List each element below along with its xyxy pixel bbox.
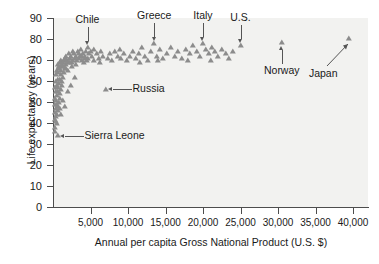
x-tick-mark <box>166 208 167 214</box>
data-point-marker <box>51 116 57 121</box>
y-axis-title: Life expectancy (years) <box>25 15 37 205</box>
annotation-arrowhead <box>238 39 242 43</box>
data-point-marker <box>151 40 157 45</box>
data-point-marker <box>207 57 213 62</box>
data-point-marker <box>62 103 68 108</box>
data-point-marker <box>197 53 203 58</box>
annotation-label-norway: Norway <box>264 65 300 76</box>
data-point-marker <box>279 39 285 44</box>
data-point-marker <box>157 47 163 52</box>
y-tick-mark <box>47 207 53 208</box>
x-tick-label: 20,000 <box>188 217 219 228</box>
annotation-leader-line <box>113 89 132 90</box>
data-point-marker <box>185 57 191 62</box>
x-axis-title: Annual per capita Gross National Product… <box>53 236 369 248</box>
annotation-label-russia: Russia <box>133 83 165 94</box>
data-point-marker <box>52 101 58 106</box>
annotation-leader-line <box>282 50 283 64</box>
x-tick-mark <box>128 208 129 214</box>
y-tick-mark <box>47 39 53 40</box>
annotation-arrowhead <box>200 37 204 41</box>
data-point-marker <box>226 55 232 60</box>
data-point-marker <box>58 112 64 117</box>
data-point-marker <box>190 43 196 48</box>
annotation-label-japan: Japan <box>309 68 338 79</box>
annotation-arrowhead <box>60 134 64 138</box>
x-tick-label: 30,000 <box>263 217 294 228</box>
data-point-marker <box>200 40 206 45</box>
data-point-marker <box>68 82 74 87</box>
annotation-arrowhead <box>108 87 112 91</box>
x-tick-mark <box>316 208 317 214</box>
data-point-marker <box>237 43 243 48</box>
annotation-label-u-s: U.S. <box>230 12 250 23</box>
data-point-marker <box>138 45 144 50</box>
data-point-marker <box>137 59 143 64</box>
x-tick-mark <box>91 208 92 214</box>
x-tick-label: 25,000 <box>225 217 256 228</box>
y-tick-mark <box>47 60 53 61</box>
data-point-marker <box>72 74 78 79</box>
x-tick-mark <box>353 208 354 214</box>
x-axis-line <box>53 207 369 208</box>
annotation-leader-line <box>241 25 242 39</box>
annotation-label-greece: Greece <box>137 10 171 21</box>
data-point-marker <box>117 47 123 52</box>
data-point-marker <box>52 85 58 90</box>
annotation-arrowhead <box>152 37 156 41</box>
data-point-marker <box>96 59 102 64</box>
x-tick-label: 35,000 <box>300 217 331 228</box>
y-tick-mark <box>47 18 53 19</box>
data-point-marker <box>52 95 58 100</box>
annotation-leader-line <box>65 136 84 137</box>
data-point-marker <box>155 57 161 62</box>
data-point-marker <box>230 49 236 54</box>
data-point-marker <box>53 78 59 83</box>
data-point-marker <box>186 51 192 56</box>
x-tick-label: 5,000 <box>78 217 103 228</box>
annotation-arrowhead <box>279 46 283 50</box>
x-tick-mark <box>241 208 242 214</box>
y-tick-mark <box>47 165 53 166</box>
annotation-leader-line <box>154 23 155 37</box>
data-point-marker <box>60 97 66 102</box>
annotation-arrowhead <box>85 41 89 45</box>
data-point-marker <box>90 47 96 52</box>
data-point-marker <box>54 61 60 66</box>
annotation-label-chile: Chile <box>76 14 100 25</box>
data-point-marker <box>147 49 153 54</box>
x-tick-mark <box>278 208 279 214</box>
x-tick-label: 40,000 <box>338 217 369 228</box>
annotation-leader-line <box>203 23 204 37</box>
x-tick-mark <box>203 208 204 214</box>
x-tick-label: 10,000 <box>113 217 144 228</box>
annotation-leader-line <box>88 27 89 41</box>
annotation-label-sierra-leone: Sierra Leone <box>85 130 145 141</box>
y-tick-mark <box>47 186 53 187</box>
data-point-marker <box>54 68 60 73</box>
x-tick-label: 15,000 <box>150 217 181 228</box>
scatter-plot-figure: 0102030405060708090 5,00010,00015,00020,… <box>0 0 379 264</box>
data-point-marker <box>168 45 174 50</box>
data-point-marker <box>69 64 75 69</box>
annotation-label-italy: Italy <box>193 10 212 21</box>
data-point-marker <box>65 89 71 94</box>
data-point-marker <box>164 51 170 56</box>
y-tick-mark <box>47 144 53 145</box>
data-point-marker <box>144 57 150 62</box>
data-point-marker <box>175 49 181 54</box>
data-point-marker <box>215 53 221 58</box>
